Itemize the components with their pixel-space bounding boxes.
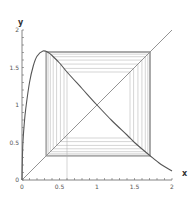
x-tick-label: 1.5 [130,183,140,190]
x-tick-label: 2 [170,183,174,190]
y-tick-label: 2 [15,26,19,33]
y-axis-label: y [18,18,24,27]
y-tick-label: 0.5 [9,139,19,146]
cobweb-path [46,52,150,180]
cobweb-chart: 00.511.5200.511.52 x y [0,0,196,203]
cobweb-iterations [46,52,150,180]
y-tick-label: 0 [15,176,19,183]
y-tick-label: 1.5 [9,64,19,71]
x-axis-label: x [182,169,188,178]
y-tick-label: 1 [15,101,19,108]
x-tick-label: 1 [95,183,99,190]
x-tick-label: 0.5 [55,183,65,190]
x-tick-label: 0 [20,183,24,190]
